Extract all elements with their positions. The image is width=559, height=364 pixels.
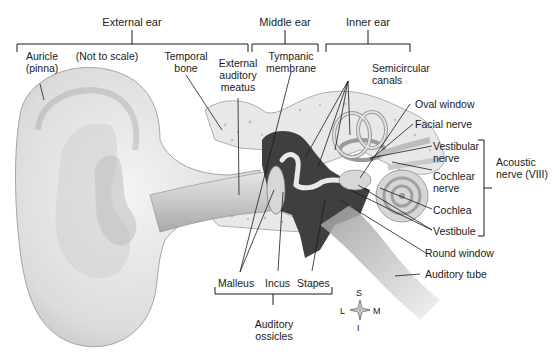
compass-lateral: L (340, 305, 345, 317)
label-auricle: Auricle (pinna) (20, 50, 64, 74)
label-acoustic-line1: Acoustic (496, 156, 548, 168)
label-auditory-tube: Auditory tube (425, 268, 487, 280)
label-semicircular-line1: Semicircular (372, 62, 430, 74)
label-tympanic-line1: Tympanic (266, 50, 316, 62)
label-auricle-line1: Auricle (20, 50, 64, 62)
label-cochlear-nerve: Cochlear nerve (433, 170, 475, 194)
label-tympanic-membrane: Tympanic membrane (266, 50, 316, 74)
label-ossicles-line1: Auditory (252, 318, 296, 330)
label-tympanic-line2: membrane (266, 62, 316, 74)
label-external-ear: External ear (97, 16, 167, 28)
label-oval-window: Oval window (415, 98, 475, 110)
label-vestibular-nerve: Vestibular nerve (433, 140, 479, 164)
label-cochlear-line1: Cochlear (433, 170, 475, 182)
label-cochlea: Cochlea (433, 204, 472, 216)
compass-inferior: I (357, 322, 360, 334)
label-facial-nerve: Facial nerve (415, 118, 472, 130)
label-auditory-ossicles: Auditory ossicles (252, 318, 296, 342)
label-incus: Incus (265, 277, 290, 289)
label-stapes: Stapes (297, 277, 330, 289)
label-vestibule: Vestibule (433, 225, 476, 237)
label-vestibular-line1: Vestibular (433, 140, 479, 152)
label-eam-line2: auditory (216, 69, 260, 81)
cochlea-shape (376, 170, 428, 222)
label-round-window: Round window (425, 247, 494, 259)
auditory-tube-shape (320, 205, 440, 320)
label-semicircular-canals: Semicircular canals (372, 62, 430, 86)
compass-medial: M (373, 305, 381, 317)
label-eam-line1: External (216, 57, 260, 69)
label-semicircular-line2: canals (372, 74, 430, 86)
ear-anatomy-diagram: External ear Middle ear Inner ear Auricl… (0, 0, 559, 364)
label-acoustic-line2: nerve (VIII) (496, 168, 548, 180)
label-auricle-line2: (pinna) (20, 62, 64, 74)
label-not-to-scale: (Not to scale) (74, 50, 140, 62)
label-middle-ear: Middle ear (255, 16, 315, 28)
label-temporal-bone: Temporal bone (163, 50, 209, 74)
label-cochlear-line2: nerve (433, 182, 475, 194)
label-malleus: Malleus (218, 277, 254, 289)
compass-rose (350, 300, 370, 320)
label-inner-ear: Inner ear (340, 16, 396, 28)
label-external-auditory-meatus: External auditory meatus (216, 57, 260, 93)
label-eam-line3: meatus (216, 81, 260, 93)
label-ossicles-line2: ossicles (252, 330, 296, 342)
compass-superior: S (356, 287, 362, 299)
label-acoustic-nerve: Acoustic nerve (VIII) (496, 156, 548, 180)
label-temporal-line2: bone (163, 62, 209, 74)
label-temporal-line1: Temporal (163, 50, 209, 62)
label-vestibular-line2: nerve (433, 152, 479, 164)
